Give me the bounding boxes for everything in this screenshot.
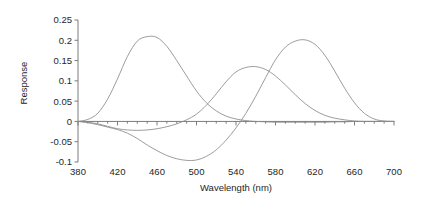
y-axis-tick-labels: -0.1-0.0500.050.10.150.20.25 <box>50 14 72 167</box>
response-curve <box>78 40 394 161</box>
data-curves-group <box>78 36 394 160</box>
y-axis-group: -0.1-0.0500.050.10.150.20.25 <box>50 14 78 167</box>
chart-canvas: -0.1-0.0500.050.10.150.20.25 38042046050… <box>0 0 424 197</box>
x-tick-label: 380 <box>70 166 86 177</box>
y-tick-label: -0.05 <box>50 136 72 147</box>
x-tick-label: 580 <box>268 166 284 177</box>
y-axis-ticks <box>75 20 79 162</box>
x-axis-title: Wavelength (nm) <box>200 182 272 193</box>
x-tick-label: 540 <box>228 166 244 177</box>
response-curve <box>78 67 394 131</box>
x-tick-label: 660 <box>347 166 363 177</box>
y-axis-title: Response <box>18 62 29 105</box>
response-curve <box>78 36 394 122</box>
x-axis-tick-labels: 380420460500540580620660700 <box>70 166 402 177</box>
x-axis-group: 380420460500540580620660700 <box>70 121 402 177</box>
spectral-response-chart: -0.1-0.0500.050.10.150.20.25 38042046050… <box>0 0 424 197</box>
x-tick-label: 700 <box>386 166 402 177</box>
x-tick-label: 620 <box>307 166 323 177</box>
y-tick-label: 0 <box>67 116 72 127</box>
y-tick-label: 0.25 <box>54 14 73 25</box>
x-tick-label: 460 <box>149 166 165 177</box>
y-tick-label: 0.2 <box>59 35 72 46</box>
y-tick-label: 0.1 <box>59 75 72 86</box>
y-tick-label: 0.05 <box>54 96 73 107</box>
y-tick-label: 0.15 <box>54 55 73 66</box>
x-tick-label: 500 <box>189 166 205 177</box>
x-tick-label: 420 <box>110 166 126 177</box>
